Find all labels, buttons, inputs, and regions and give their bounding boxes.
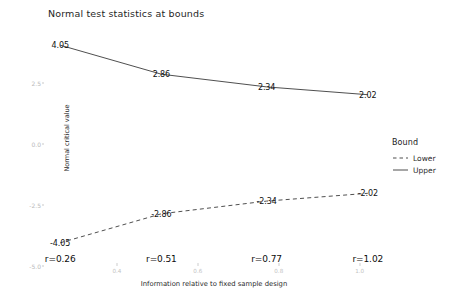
x-axis-title: Information relative to fixed sample des…	[44, 280, 384, 288]
legend: Bound Lower Upper	[392, 138, 462, 176]
legend-item-lower[interactable]: Lower	[392, 152, 462, 164]
x-tick-label: 0.6	[193, 268, 202, 274]
r-annotation: r=0.77	[251, 254, 282, 264]
y-tick-mark	[42, 144, 45, 145]
series-line-upper	[60, 45, 368, 95]
chart-container: Normal test statistics at bounds Normal …	[0, 0, 463, 303]
legend-item-upper[interactable]: Upper	[392, 164, 462, 176]
y-axis-title: Normal critical value	[63, 93, 71, 183]
plot-lines	[44, 22, 384, 266]
x-tick-mark	[197, 263, 198, 266]
point-label: -2.34	[257, 197, 277, 206]
solid-line-icon	[392, 165, 409, 175]
x-tick-label: 1.0	[355, 268, 364, 274]
y-tick-mark	[42, 205, 45, 206]
point-label: 2.34	[258, 82, 275, 91]
y-tick-label: 0.0	[31, 141, 41, 148]
x-tick-label: 0.8	[274, 268, 283, 274]
point-label: 2.86	[153, 70, 170, 79]
point-label: -4.05	[50, 238, 70, 247]
r-annotation: r=0.51	[146, 254, 177, 264]
r-annotation: r=0.26	[45, 254, 76, 264]
point-label: -2.02	[358, 189, 378, 198]
legend-label-lower: Lower	[413, 154, 435, 163]
x-tick-mark	[116, 263, 117, 266]
y-tick-mark	[42, 266, 45, 267]
legend-label-upper: Upper	[413, 166, 436, 175]
y-tick-mark	[42, 83, 45, 84]
y-tick-label: -2.5	[29, 202, 41, 209]
y-tick-label: -5.0	[29, 263, 41, 270]
point-label: 4.05	[51, 41, 68, 50]
point-label: -2.86	[151, 209, 171, 218]
legend-title: Bound	[392, 138, 462, 147]
r-annotation: r=1.02	[352, 254, 383, 264]
chart-title: Normal test statistics at bounds	[48, 8, 204, 19]
dashed-line-icon	[392, 153, 409, 163]
x-tick-label: 0.4	[112, 268, 121, 274]
point-label: 2.02	[359, 90, 376, 99]
series-line-lower	[60, 193, 368, 243]
plot-panel: Normal critical value 2.50.0-2.5-5.0 0.4…	[44, 22, 384, 266]
y-tick-label: 2.5	[31, 80, 41, 87]
